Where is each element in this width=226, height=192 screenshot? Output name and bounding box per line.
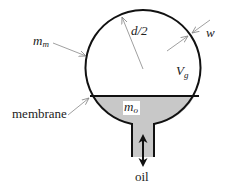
wall-thickness-arrow-in [167,36,188,51]
accumulator-diagram: mm d/2 w Vg mo membrane oil [0,0,226,192]
membrane-label: membrane [12,106,67,121]
radius-label: d/2 [131,23,148,38]
membrane-mass-arrow [53,43,86,56]
oil-label: oil [135,169,149,184]
membrane-mass-label: mm [33,33,49,49]
membrane-arrow [68,98,89,115]
wall-thickness-label: w [206,25,215,40]
gas-volume-label: Vg [176,63,189,80]
